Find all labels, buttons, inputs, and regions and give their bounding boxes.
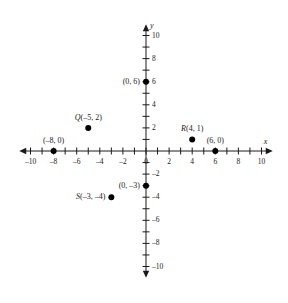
- x-axis-tick-label: –4: [96, 158, 104, 166]
- point-R-dot[interactable]: [189, 136, 195, 142]
- axes-svg: [0, 0, 288, 303]
- y-axis-tick-label: 10: [152, 32, 160, 40]
- y-axis-arrow-down: [143, 271, 149, 278]
- y-axis-tick-label: –10: [152, 263, 163, 271]
- x-axis-tick-label: 2: [167, 158, 171, 166]
- point-0-6-label: (0, 6): [123, 78, 140, 86]
- point-neg8-0-dot[interactable]: [51, 148, 57, 154]
- point-6-0-label: (6, 0): [207, 137, 224, 145]
- x-axis-arrow-right: [266, 148, 273, 154]
- point-S-dot[interactable]: [108, 194, 114, 200]
- y-axis-tick-label: –8: [152, 239, 160, 247]
- x-axis-tick-label: –10: [25, 158, 36, 166]
- x-axis-label: x: [264, 138, 268, 146]
- y-axis-tick-label: 2: [152, 124, 156, 132]
- y-axis-arrow-up: [143, 24, 149, 31]
- x-axis-tick-label: 6: [213, 158, 217, 166]
- point-0-neg3-dot[interactable]: [143, 183, 149, 189]
- y-axis-tick-label: 6: [152, 78, 156, 86]
- x-axis-tick-label: 10: [258, 158, 266, 166]
- point-Q-dot[interactable]: [85, 125, 91, 131]
- point-0-neg3-label: (0, –3): [119, 182, 140, 190]
- y-axis-tick-label: 4: [152, 101, 156, 109]
- x-axis-tick-label: –6: [73, 158, 81, 166]
- point-6-0-dot[interactable]: [212, 148, 218, 154]
- x-axis-tick-label: 4: [190, 158, 194, 166]
- y-axis-tick-label: –2: [152, 170, 160, 178]
- y-axis-tick-label: 8: [152, 55, 156, 63]
- y-axis-tick-label: –4: [152, 193, 160, 201]
- x-axis-tick-label: –8: [50, 158, 58, 166]
- point-Q-label: Q(–5, 2): [75, 114, 102, 122]
- y-axis-label: y: [150, 22, 154, 30]
- point-neg8-0-label: (–8, 0): [43, 137, 64, 145]
- point-S-label: S(–3, –4): [76, 193, 105, 201]
- x-axis-arrow-left: [19, 148, 26, 154]
- coordinate-plane-figure: –10–8–6–4–20246810108642–2–4–6–8–10xy(0,…: [0, 0, 288, 303]
- y-axis-tick-label: –6: [152, 216, 160, 224]
- x-axis-tick-label: 8: [237, 158, 241, 166]
- x-axis-tick-label: 0: [144, 158, 148, 166]
- x-axis-tick-label: –2: [119, 158, 127, 166]
- point-R-label: R(4, 1): [181, 125, 203, 133]
- point-0-6-dot[interactable]: [143, 79, 149, 85]
